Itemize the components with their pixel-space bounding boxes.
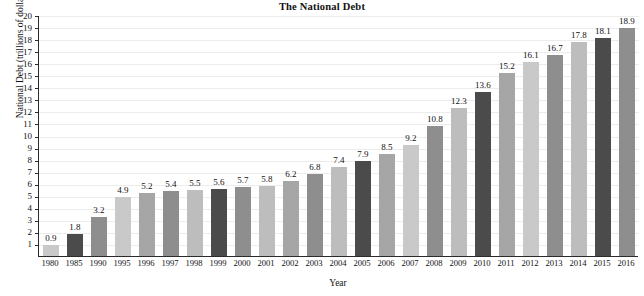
bar-group[interactable]: 16.7 [547, 15, 564, 256]
bar-group[interactable]: 7.9 [355, 15, 372, 256]
bar-group[interactable]: 3.2 [91, 15, 108, 256]
bar[interactable] [163, 191, 180, 256]
x-tick-label: 1995 [110, 259, 134, 268]
bar-group[interactable]: 13.6 [475, 15, 492, 256]
bar[interactable] [619, 28, 636, 256]
x-tick-label: 2008 [422, 259, 446, 268]
bar-value-label: 18.1 [595, 27, 611, 36]
bar-group[interactable]: 5.7 [235, 15, 252, 256]
bar[interactable] [403, 145, 420, 256]
x-tick-label: 1985 [62, 259, 86, 268]
bar[interactable] [307, 174, 324, 256]
bar-value-label: 15.2 [499, 62, 515, 71]
bar-group[interactable]: 4.9 [115, 15, 132, 256]
y-tick-mark [35, 88, 39, 89]
bar[interactable] [331, 167, 348, 256]
chart-container: The National Debt National Debt (trillio… [0, 0, 644, 296]
y-tick-mark [35, 173, 39, 174]
y-tick-mark [35, 161, 39, 162]
bar[interactable] [379, 154, 396, 256]
bar[interactable] [235, 187, 252, 256]
x-tick-label: 2000 [230, 259, 254, 268]
bar[interactable] [283, 181, 300, 256]
x-tick-label: 1996 [134, 259, 158, 268]
bar-group[interactable]: 0.9 [43, 15, 60, 256]
bar-value-label: 6.2 [285, 170, 296, 179]
x-tick-label: 2001 [254, 259, 278, 268]
bar-group[interactable]: 17.8 [571, 15, 588, 256]
y-tick-mark [35, 64, 39, 65]
bar[interactable] [43, 245, 60, 256]
bar-group[interactable]: 6.8 [307, 15, 324, 256]
bar[interactable] [523, 62, 540, 256]
bar-group[interactable]: 5.5 [187, 15, 204, 256]
bar[interactable] [91, 217, 108, 256]
bar-group[interactable]: 5.4 [163, 15, 180, 256]
bar[interactable] [259, 186, 276, 256]
bar-group[interactable]: 18.1 [595, 15, 612, 256]
bar[interactable] [547, 55, 564, 256]
bar[interactable] [475, 92, 492, 256]
bar[interactable] [427, 126, 444, 256]
x-tick-label: 2003 [302, 259, 326, 268]
y-tick-mark [35, 221, 39, 222]
bar[interactable] [67, 234, 84, 256]
bar-group[interactable]: 15.2 [499, 15, 516, 256]
bar-group[interactable]: 18.9 [619, 15, 636, 256]
y-tick-mark [35, 209, 39, 210]
bar-value-label: 5.4 [165, 180, 176, 189]
y-tick-mark [35, 100, 39, 101]
bar-group[interactable]: 9.2 [403, 15, 420, 256]
bar-group[interactable]: 1.8 [67, 15, 84, 256]
bar-group[interactable]: 5.6 [211, 15, 228, 256]
bar-value-label: 5.6 [213, 178, 224, 187]
x-tick-label: 2015 [590, 259, 614, 268]
bar-group[interactable]: 10.8 [427, 15, 444, 256]
bar[interactable] [139, 193, 156, 256]
y-tick-mark [35, 52, 39, 53]
bar-value-label: 5.8 [261, 175, 272, 184]
bar-value-label: 1.8 [69, 223, 80, 232]
y-tick-mark [35, 40, 39, 41]
bar-group[interactable]: 8.5 [379, 15, 396, 256]
y-tick-label: 1 [10, 240, 32, 249]
bar-group[interactable]: 12.3 [451, 15, 468, 256]
y-tick-mark [35, 137, 39, 138]
x-tick-label: 2012 [518, 259, 542, 268]
bar[interactable] [595, 38, 612, 256]
bar-group[interactable]: 5.2 [139, 15, 156, 256]
bar[interactable] [115, 197, 132, 256]
bar-value-label: 10.8 [427, 115, 443, 124]
y-tick-mark [35, 16, 39, 17]
y-tick-label: 12 [10, 108, 32, 117]
bar-value-label: 18.9 [619, 17, 635, 26]
y-tick-label: 16 [10, 60, 32, 69]
bar[interactable] [211, 189, 228, 256]
y-tick-label: 5 [10, 192, 32, 201]
bar-value-label: 5.2 [141, 182, 152, 191]
bar-value-label: 7.9 [357, 150, 368, 159]
x-tick-label: 1990 [86, 259, 110, 268]
y-tick-mark [35, 149, 39, 150]
bar-value-label: 13.6 [475, 81, 491, 90]
bar-value-label: 0.9 [45, 234, 56, 243]
bar[interactable] [187, 190, 204, 256]
bar-value-label: 8.5 [381, 143, 392, 152]
bar-group[interactable]: 5.8 [259, 15, 276, 256]
y-tick-mark [35, 76, 39, 77]
y-tick-mark [35, 185, 39, 186]
bar[interactable] [355, 161, 372, 256]
bar[interactable] [451, 108, 468, 256]
x-tick-label: 1980 [38, 259, 62, 268]
bar-group[interactable]: 16.1 [523, 15, 540, 256]
y-tick-label: 3 [10, 216, 32, 225]
bar[interactable] [571, 42, 588, 256]
y-tick-label: 19 [10, 24, 32, 33]
y-tick-label: 2 [10, 228, 32, 237]
x-axis-label: Year [38, 278, 638, 288]
y-tick-label: 7 [10, 168, 32, 177]
bar[interactable] [499, 73, 516, 256]
bar-group[interactable]: 6.2 [283, 15, 300, 256]
bar-value-label: 7.4 [333, 156, 344, 165]
bar-group[interactable]: 7.4 [331, 15, 348, 256]
